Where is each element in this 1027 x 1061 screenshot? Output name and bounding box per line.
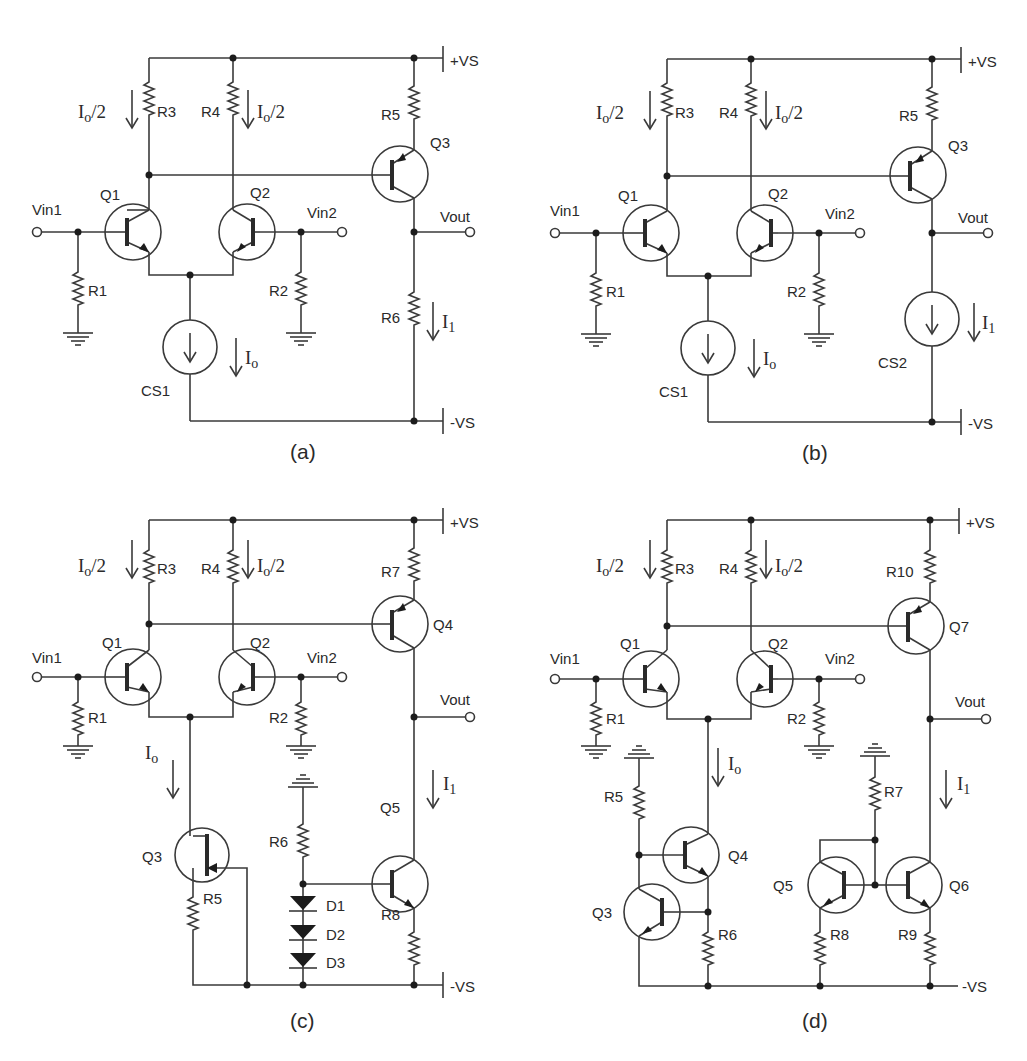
transistor-Q5-npn bbox=[808, 857, 864, 913]
component-label: Q2 bbox=[250, 184, 270, 201]
resistor-R4 bbox=[228, 80, 238, 116]
component-label: Q5 bbox=[773, 877, 793, 894]
component-label: R9 bbox=[898, 926, 917, 943]
component-label: D2 bbox=[326, 926, 345, 943]
diode-D1 bbox=[289, 896, 317, 911]
component-label: Q7 bbox=[949, 618, 969, 635]
ground-icon bbox=[63, 333, 93, 345]
component-label: R3 bbox=[675, 104, 694, 121]
emitter-arrow-icon bbox=[397, 153, 406, 162]
input-label: Vin1 bbox=[32, 201, 62, 218]
component-label: R6 bbox=[718, 926, 737, 943]
input-label: Vin1 bbox=[32, 649, 62, 666]
component-label: R7 bbox=[884, 783, 903, 800]
supply-label: +VS bbox=[966, 514, 995, 531]
current-label: I1 bbox=[443, 773, 456, 797]
transistor-Q5-npn bbox=[372, 856, 428, 912]
current-label: Io/2 bbox=[596, 555, 624, 579]
supply-label: -VS bbox=[450, 414, 475, 431]
component-label: Q6 bbox=[949, 877, 969, 894]
output-label: Vout bbox=[440, 208, 471, 225]
current-label: Io/2 bbox=[78, 555, 106, 579]
vout-terminal bbox=[466, 228, 475, 237]
component-label: Q3 bbox=[592, 904, 612, 921]
component-label: R5 bbox=[381, 106, 400, 123]
ground-icon bbox=[624, 746, 654, 758]
current-label: I1 bbox=[957, 773, 970, 797]
component-label: Q2 bbox=[250, 634, 270, 651]
transistor-Q1-npn bbox=[623, 205, 679, 261]
schematic-canvas: +VS -VS Vin1 Vin2 Vout Q1 Q2 Q3 R3 R4 R1… bbox=[0, 0, 1027, 1061]
current-arrow-icon bbox=[427, 302, 439, 340]
resistor-R3 bbox=[144, 80, 154, 116]
current-label: I1 bbox=[982, 312, 995, 336]
current-label: Io bbox=[728, 753, 741, 777]
diode-D3 bbox=[289, 953, 317, 968]
transistor-Q6-npn bbox=[886, 857, 942, 913]
panel-caption: (c) bbox=[290, 1009, 315, 1032]
panel-caption: (a) bbox=[290, 440, 316, 463]
component-label: CS1 bbox=[659, 383, 688, 400]
ground-icon bbox=[286, 746, 316, 758]
component-label: R5 bbox=[899, 107, 918, 124]
component-label: R2 bbox=[787, 283, 806, 300]
input-label: Vin2 bbox=[825, 205, 855, 222]
component-label: R2 bbox=[787, 710, 806, 727]
supply-label: -VS bbox=[450, 978, 475, 995]
panel-b: +VS -VS Vin1 Vin2 Vout Q1 Q2 Q3 R3 R4 R1… bbox=[550, 47, 997, 464]
panel-caption: (b) bbox=[802, 441, 828, 464]
component-label: R4 bbox=[201, 560, 220, 577]
component-label: R2 bbox=[269, 282, 288, 299]
ground-icon bbox=[804, 746, 834, 758]
supply-label: +VS bbox=[450, 52, 479, 69]
component-label: R5 bbox=[203, 890, 222, 907]
resistor-R2 bbox=[296, 270, 306, 306]
component-label: Q4 bbox=[728, 847, 748, 864]
current-source-CS2 bbox=[905, 292, 959, 346]
input-label: Vin1 bbox=[550, 202, 580, 219]
component-label: Q1 bbox=[100, 186, 120, 203]
component-label: R1 bbox=[606, 710, 625, 727]
component-label: Q1 bbox=[102, 634, 122, 651]
ground-icon bbox=[63, 746, 93, 758]
input-label: Vin1 bbox=[550, 650, 580, 667]
transistor-Q3-pnp bbox=[890, 147, 946, 203]
ground-icon bbox=[581, 746, 611, 758]
supply-label: -VS bbox=[968, 415, 993, 432]
component-label: CS2 bbox=[878, 354, 907, 371]
component-label: R3 bbox=[157, 103, 176, 120]
transistor-Q1-npn bbox=[105, 204, 161, 260]
current-label: Io bbox=[245, 347, 258, 371]
transistor-Q1-npn bbox=[105, 649, 161, 705]
component-label: R1 bbox=[88, 709, 107, 726]
current-arrow-icon bbox=[126, 90, 138, 128]
input-label: Vin2 bbox=[825, 650, 855, 667]
transistor-Q7-pnp bbox=[888, 598, 944, 654]
transistor-Q3-pnp bbox=[372, 146, 428, 202]
component-label: Q3 bbox=[142, 848, 162, 865]
component-label: R4 bbox=[719, 104, 738, 121]
emitter-arrow-icon bbox=[139, 243, 149, 252]
component-label: R8 bbox=[830, 926, 849, 943]
transistor-Q4-pnp bbox=[372, 596, 428, 652]
component-label: D3 bbox=[326, 954, 345, 971]
current-arrow-icon bbox=[230, 338, 242, 376]
panel-d: +VS -VS Vin1 Vin2 Vout Q1 Q2 Q3 Q4 Q5 Q6… bbox=[550, 508, 995, 1032]
component-label: R1 bbox=[88, 282, 107, 299]
supply-label: -VS bbox=[962, 978, 987, 995]
component-label: Q2 bbox=[768, 185, 788, 202]
component-label: R2 bbox=[269, 709, 288, 726]
schematic-figure: +VS -VS Vin1 Vin2 Vout Q1 Q2 Q3 R3 R4 R1… bbox=[0, 0, 1027, 1061]
component-label: Q1 bbox=[620, 635, 640, 652]
transistor-Q1-npn bbox=[623, 650, 679, 707]
diode-D2 bbox=[289, 925, 317, 940]
current-label: Io bbox=[145, 742, 158, 766]
current-label: Io bbox=[763, 348, 776, 372]
panel-a: +VS -VS Vin1 Vin2 Vout Q1 Q2 Q3 R3 R4 R1… bbox=[32, 46, 479, 463]
input-label: Vin2 bbox=[307, 649, 337, 666]
transistor-Q3-npn bbox=[624, 879, 680, 940]
current-source-CS1 bbox=[163, 320, 217, 374]
vin1-terminal bbox=[33, 228, 42, 237]
component-label: R3 bbox=[675, 560, 694, 577]
component-label: R3 bbox=[157, 560, 176, 577]
